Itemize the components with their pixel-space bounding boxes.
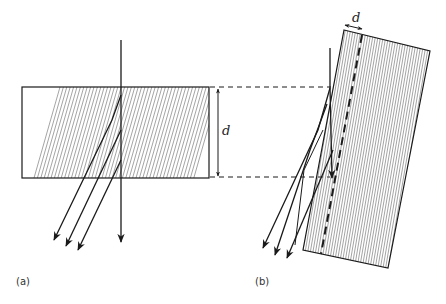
thickness-label-b: d: [352, 10, 360, 25]
thickness-arrow-b: [345, 25, 362, 29]
panel-a: d (a): [16, 40, 331, 287]
panel-b-label: (b): [255, 276, 269, 287]
panel-b: d (b): [255, 10, 443, 287]
slab-a-hatching: [34, 87, 220, 178]
thickness-label-a: d: [222, 123, 230, 138]
diagram-canvas: d (a) d (b): [0, 0, 446, 304]
oblique-ray-b-1: [263, 88, 330, 248]
incident-ray-b: [330, 48, 332, 178]
panel-a-label: (a): [16, 276, 30, 287]
oblique-ray-b-2: [275, 104, 327, 255]
oblique-ray-a-3: [78, 160, 121, 250]
